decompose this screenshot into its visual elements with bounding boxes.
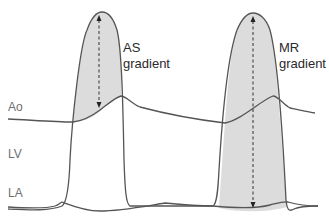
as-gradient-label-line1: AS [123, 40, 170, 56]
as-gradient-label: AS gradient [123, 40, 170, 72]
as-gradient-label-line2: gradient [123, 56, 170, 72]
ao-label: Ao [8, 101, 23, 114]
la-label: LA [8, 187, 23, 200]
pressure-tracing-diagram [0, 0, 329, 220]
mr-gradient-label-line2: gradient [279, 56, 326, 72]
mr-gradient-label-line1: MR [279, 40, 326, 56]
as-gradient-shaded-area [73, 12, 121, 122]
mr-gradient-label: MR gradient [279, 40, 326, 72]
lv-label: LV [8, 148, 22, 161]
